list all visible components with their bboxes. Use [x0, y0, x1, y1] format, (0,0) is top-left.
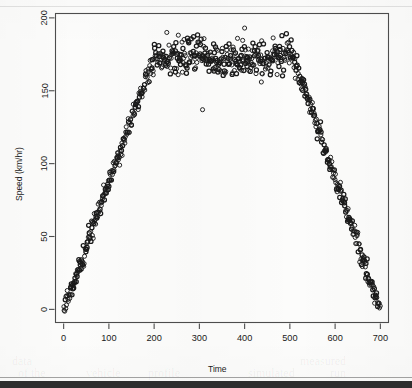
data-points [62, 26, 382, 313]
x-tick-label: 400 [237, 333, 252, 343]
x-tick-label: 300 [192, 333, 207, 343]
y-tick-label: 200 [40, 10, 50, 25]
scanned-figure-page: 0100200300400500600700 050100150200 Time… [0, 0, 412, 388]
scatter-plot: 0100200300400500600700 050100150200 [0, 0, 412, 388]
x-tick-label: 500 [282, 333, 297, 343]
y-tick-label: 100 [40, 156, 50, 171]
y-tick-label: 50 [40, 231, 50, 241]
y-axis: 050100150200 [40, 10, 55, 312]
scan-bottom-edge [0, 381, 412, 388]
y-axis-label: Speed (km/hr) [14, 147, 24, 201]
x-tick-label: 200 [146, 333, 161, 343]
x-tick-label: 0 [61, 333, 66, 343]
scan-bottom-line [0, 377, 412, 378]
x-tick-label: 600 [327, 333, 342, 343]
x-tick-label: 100 [101, 333, 116, 343]
y-tick-label: 0 [40, 307, 50, 312]
x-axis: 0100200300400500600700 [61, 324, 388, 343]
y-tick-label: 150 [40, 83, 50, 98]
x-axis-label: Time [208, 364, 227, 374]
x-tick-label: 700 [373, 333, 388, 343]
